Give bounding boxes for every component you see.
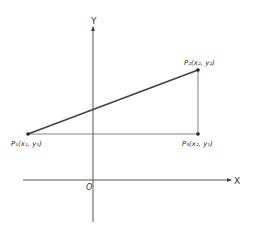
point-p1 bbox=[26, 132, 30, 136]
x-axis-label: X bbox=[234, 176, 240, 186]
point-p3 bbox=[196, 132, 200, 136]
y-axis-label: Y bbox=[90, 16, 97, 26]
segment-p1-p2 bbox=[28, 70, 198, 134]
label-p2: P₂(x₂, y₂) bbox=[184, 59, 215, 67]
coordinate-diagram: Y X O P₂(x₂, y₂) P₁(x₁, y₁) P₃(x₂, y₁) bbox=[0, 0, 254, 227]
point-p2 bbox=[196, 68, 200, 72]
origin-label: O bbox=[86, 183, 92, 192]
label-p1: P₁(x₁, y₁) bbox=[11, 140, 42, 148]
label-p3: P₃(x₂, y₁) bbox=[182, 140, 213, 148]
